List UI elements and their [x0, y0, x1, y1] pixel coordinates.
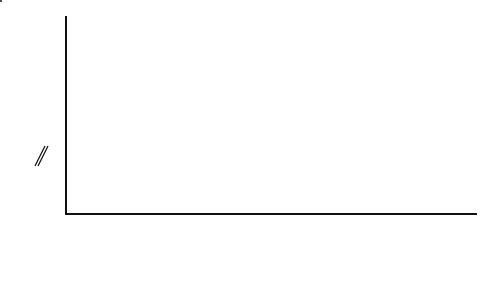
- solar-ppa-bubble-chart: [0, 0, 480, 296]
- axis-break-icon: [32, 140, 50, 168]
- x-axis-line: [65, 213, 477, 215]
- size-reference-1gw: [0, 0, 2, 2]
- plot-area: [65, 18, 475, 213]
- legend: [0, 240, 480, 296]
